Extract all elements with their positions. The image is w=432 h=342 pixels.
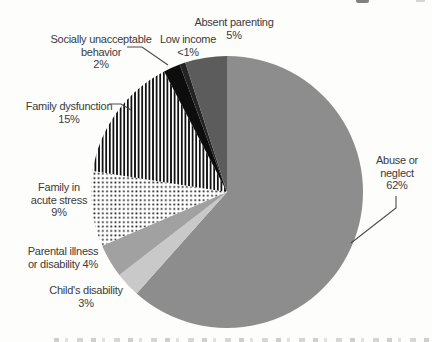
label-abuse-or-neglect-value: 62%: [376, 179, 418, 192]
label-socially-unacceptable-text2: behavior: [50, 46, 151, 59]
label-family-dysfunction-text: Family dysfunction: [26, 100, 113, 113]
label-socially-unacceptable-text1: Socially unacceptable: [50, 33, 151, 46]
label-family-dysfunction-value: 15%: [26, 113, 113, 126]
label-socially-unacceptable: Socially unacceptable behavior 2%: [50, 33, 151, 71]
label-abuse-or-neglect: Abuse or neglect 62%: [376, 154, 418, 192]
cropped-ink-fragment-top-2: [416, 0, 425, 2]
label-parental-illness-text2: or disability 4%: [28, 258, 99, 271]
label-childs-disability-text: Child's disability: [49, 284, 122, 297]
label-low-income-text: Low income: [160, 33, 216, 46]
label-abuse-or-neglect-text1: Abuse or: [376, 154, 418, 167]
cropped-ink-fragment-top: [356, 0, 369, 3]
label-abuse-or-neglect-text2: neglect: [376, 167, 418, 180]
cropped-caption-fragment-bottom: [54, 338, 430, 342]
label-family-dysfunction: Family dysfunction 15%: [26, 100, 113, 125]
label-family-acute-stress-value: 9%: [31, 206, 87, 219]
label-low-income-value: <1%: [160, 46, 216, 59]
label-family-acute-stress-text2: acute stress: [31, 194, 87, 207]
label-socially-unacceptable-value: 2%: [50, 58, 151, 71]
label-childs-disability: Child's disability 3%: [49, 284, 122, 309]
pie-slices: [91, 56, 363, 328]
label-parental-illness-text1: Parental illness: [28, 245, 99, 258]
label-childs-disability-value: 3%: [49, 297, 122, 310]
label-parental-illness: Parental illness or disability 4%: [28, 245, 99, 270]
label-low-income: Low income <1%: [160, 33, 216, 58]
label-family-acute-stress-text1: Family in: [31, 181, 87, 194]
label-family-acute-stress: Family in acute stress 9%: [31, 181, 87, 219]
label-absent-parenting-text: Absent parenting: [194, 16, 273, 29]
pie-chart-figure: Absent parenting 5% Low income <1% Socia…: [0, 0, 432, 342]
